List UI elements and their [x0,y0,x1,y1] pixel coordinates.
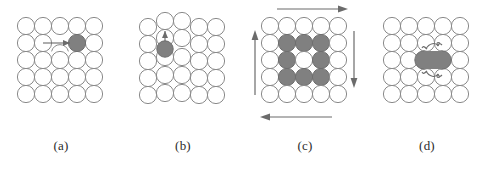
rotation-arrow-left [252,30,259,95]
caption-a: (a) [0,138,122,154]
panel-b-interstitial: (b) [122,0,244,174]
lattice-atoms-b [139,12,224,103]
caption-c: (c) [244,138,366,154]
dumbbell-defect-d [415,51,451,69]
panel-d-interstitialcy: (d) [366,0,486,174]
rotation-arrow-bottom [260,114,332,121]
vacancy-site-a [52,45,69,52]
lattice-atoms-c [261,17,346,102]
defect-atom-b [157,41,173,57]
caption-b: (b) [122,138,244,154]
panel-c-lattice [244,0,366,140]
panel-c-ring: (c) [244,0,366,174]
rotation-arrow-right [351,31,358,88]
defect-atom-a [68,34,85,51]
panel-a-vacancy: (a) [0,0,122,174]
panel-d-lattice [366,0,486,140]
lattice-atoms-a [17,17,102,102]
point-defect-figure: (a) [0,0,486,174]
panel-b-lattice [122,0,244,140]
panel-a-lattice [0,0,122,140]
caption-d: (d) [366,138,486,154]
rotation-arrow-top [277,6,348,13]
